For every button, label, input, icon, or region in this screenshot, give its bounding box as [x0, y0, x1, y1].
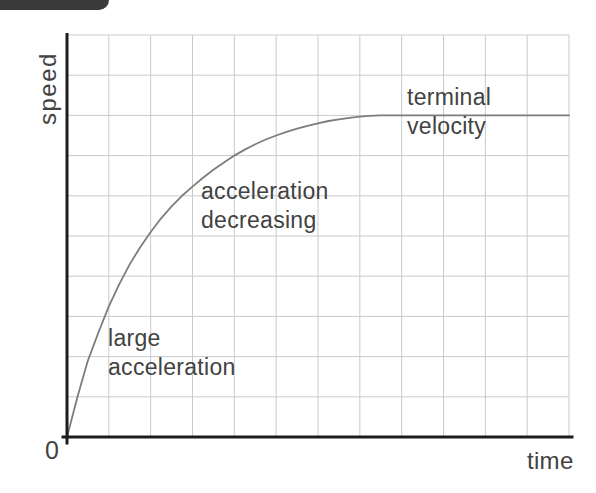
- x-axis-label: time: [527, 447, 574, 475]
- annotation-acceleration-decreasing: acceleration decreasing: [201, 177, 329, 235]
- annotation-terminal-velocity-line1: terminal: [407, 83, 491, 112]
- origin-label: 0: [45, 436, 59, 465]
- annotation-large-acceleration: large acceleration: [108, 324, 236, 382]
- y-axis-label: speed: [34, 52, 62, 125]
- annotation-terminal-velocity: terminal velocity: [407, 83, 491, 141]
- annotation-acceleration-decreasing-line2: decreasing: [201, 206, 329, 235]
- annotation-large-acceleration-line2: acceleration: [108, 353, 236, 382]
- speed-time-chart: speed 0 time large acceleration accelera…: [0, 0, 596, 493]
- textbook-page: speed 0 time large acceleration accelera…: [0, 0, 596, 493]
- graph-canvas: [0, 0, 596, 493]
- annotation-terminal-velocity-line2: velocity: [407, 112, 491, 141]
- annotation-large-acceleration-line1: large: [108, 324, 236, 353]
- annotation-acceleration-decreasing-line1: acceleration: [201, 177, 329, 206]
